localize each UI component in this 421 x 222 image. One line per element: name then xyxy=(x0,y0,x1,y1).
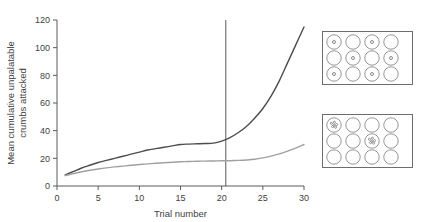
crumb-well xyxy=(365,150,379,164)
crumb-well xyxy=(327,150,341,164)
crumb-dot-icon xyxy=(390,57,393,60)
crumb-well xyxy=(384,150,398,164)
grid-panel-top xyxy=(322,31,413,85)
crumb-well xyxy=(327,134,341,148)
crumb-well xyxy=(384,67,398,81)
y-tick-label: 40 xyxy=(40,126,50,136)
x-tick-label: 25 xyxy=(258,193,268,203)
crumb-well xyxy=(327,51,341,65)
x-tick-label: 30 xyxy=(299,193,309,203)
crumb-dot-icon xyxy=(371,73,374,76)
crumb-dot-icon xyxy=(333,73,336,76)
y-axis-title-line1: Mean cumulative unpalatable xyxy=(5,41,16,165)
x-tick-label: 10 xyxy=(134,193,144,203)
tick-label-group: 020406080100120051015202530 xyxy=(35,15,309,203)
grid-panel-bottom-canvas xyxy=(323,115,412,167)
plot-canvas: 020406080100120051015202530 Trial number… xyxy=(0,0,312,222)
crumb-well xyxy=(384,134,398,148)
x-tick-label: 5 xyxy=(96,193,101,203)
crumb-well xyxy=(346,118,360,132)
series-line-dark-curve xyxy=(65,27,304,175)
crumb-well xyxy=(384,35,398,49)
crumb-well xyxy=(365,134,379,148)
y-tick-label: 60 xyxy=(40,98,50,108)
series-line-light-curve xyxy=(65,145,304,176)
grid-panel-bottom xyxy=(322,114,413,168)
crumb-well xyxy=(346,150,360,164)
crumb-well xyxy=(346,67,360,81)
crumb-well xyxy=(365,118,379,132)
y-tick-label: 100 xyxy=(35,43,50,53)
crumb-well xyxy=(327,118,341,132)
crumb-well xyxy=(365,51,379,65)
grid-panel-top-canvas xyxy=(323,32,412,84)
y-tick-label: 80 xyxy=(40,71,50,81)
y-axis-title-line2: crumbs attacked xyxy=(17,68,28,138)
crumb-dot-icon xyxy=(333,41,336,44)
y-tick-label: 20 xyxy=(40,154,50,164)
x-tick-label: 15 xyxy=(175,193,185,203)
figure-root: 020406080100120051015202530 Trial number… xyxy=(0,0,421,222)
y-tick-label: 0 xyxy=(45,181,50,191)
line-chart: 020406080100120051015202530 Trial number… xyxy=(0,0,312,222)
crumb-dot-icon xyxy=(371,41,374,44)
x-tick-label: 20 xyxy=(217,193,227,203)
y-tick-label: 120 xyxy=(35,15,50,25)
crumb-well xyxy=(346,134,360,148)
x-axis-title: Trial number xyxy=(154,208,207,219)
data-series-group xyxy=(65,27,304,176)
x-tick-label: 0 xyxy=(54,193,59,203)
crumb-well xyxy=(346,35,360,49)
crumb-dot-icon xyxy=(352,57,355,60)
crumb-well xyxy=(384,118,398,132)
